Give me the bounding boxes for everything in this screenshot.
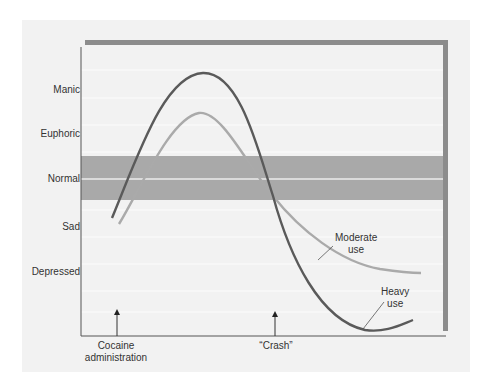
cocaine-label-line2: administration	[85, 352, 147, 364]
y-label-sad: Sad	[62, 221, 80, 232]
cocaine-label-line1: Cocaine	[85, 340, 147, 352]
y-label-depressed: Depressed	[32, 266, 80, 277]
cocaine-arrow-icon	[114, 309, 120, 336]
moderate-use-label: Moderate use	[335, 232, 377, 256]
heavy-use-label: Heavy use	[381, 286, 409, 310]
heavy-use-curve	[112, 73, 413, 331]
moderate-label-line1: Moderate	[335, 232, 377, 244]
crash-label: “Crash”	[259, 340, 292, 352]
y-label-normal: Normal	[48, 173, 80, 184]
y-label-euphoric: Euphoric	[41, 128, 80, 139]
heavy-label-line2: use	[381, 298, 409, 310]
moderate-leader	[318, 246, 333, 260]
heavy-label-line1: Heavy	[381, 286, 409, 298]
right-frame-bar	[443, 40, 448, 331]
top-frame-bar	[85, 40, 448, 45]
chart-canvas	[0, 0, 492, 388]
x-annotation-cocaine: Cocaine administration	[85, 340, 147, 364]
y-label-manic: Manic	[53, 84, 80, 95]
moderate-label-line2: use	[335, 244, 377, 256]
x-annotation-crash: “Crash”	[259, 340, 292, 352]
crash-arrow-icon	[272, 311, 278, 336]
